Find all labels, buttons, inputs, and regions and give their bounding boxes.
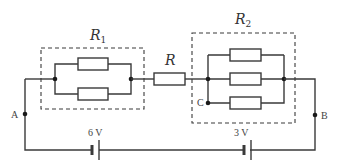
battery-3v-label: 3 V: [234, 127, 249, 138]
right-wire: [250, 79, 315, 150]
battery-6v-label: 6 V: [88, 127, 103, 138]
resistor-r: [154, 73, 185, 85]
node-a: [23, 112, 28, 117]
r2-resistor-bottom: [230, 97, 261, 109]
r2-resistor-top: [230, 49, 261, 61]
r2-label: R2: [234, 11, 251, 29]
node-c: [206, 101, 211, 106]
node-a-label: A: [11, 109, 19, 120]
node-b: [313, 113, 318, 118]
r1-label: R1: [89, 27, 106, 45]
r1-left-junction: [53, 77, 58, 82]
node-c-label: C: [197, 97, 204, 108]
r2-left-junction: [206, 77, 211, 82]
node-b-label: B: [321, 110, 328, 121]
r1-resistor-bottom: [78, 88, 108, 100]
r-label: R: [164, 52, 176, 68]
r2-resistor-middle: [230, 73, 261, 85]
circuit-diagram: R1 R2 R A B C 6 V 3 V: [0, 0, 337, 168]
r1-resistor-top: [78, 58, 108, 70]
